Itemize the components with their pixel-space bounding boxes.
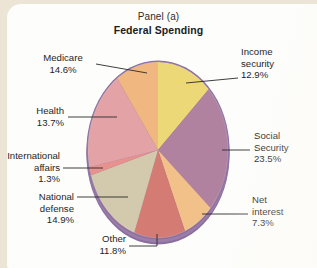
label-income-security: Income security 12.9% <box>241 46 274 81</box>
label-net-interest: Net interest 7.3% <box>252 194 283 229</box>
label-medicare: Medicare 14.6% <box>33 52 93 75</box>
figure-container: Panel (a) Federal Spending <box>0 0 317 268</box>
label-social-security-line2: Security <box>254 142 289 153</box>
label-international-affairs: International affairs 1.3% <box>0 150 60 185</box>
label-income-security-value: 12.9% <box>241 69 274 81</box>
label-net-interest-line1: Net <box>252 194 267 205</box>
label-other-value: 11.8% <box>58 245 126 257</box>
label-international-affairs-value: 1.3% <box>0 173 60 185</box>
label-income-security-line1: Income <box>241 46 272 57</box>
label-net-interest-line2: interest <box>252 206 283 217</box>
label-health: Health 13.7% <box>0 105 64 128</box>
label-medicare-value: 14.6% <box>33 64 93 76</box>
label-national-defense-line1: National <box>39 191 74 202</box>
label-net-interest-value: 7.3% <box>252 217 283 229</box>
label-social-security: Social Security 23.5% <box>254 130 289 165</box>
label-international-affairs-line2: affairs <box>34 162 60 173</box>
label-income-security-line2: security <box>241 58 274 69</box>
label-international-affairs-line1: International <box>7 150 60 161</box>
label-national-defense-value: 14.9% <box>3 214 74 226</box>
label-other-line1: Other <box>102 233 126 244</box>
label-national-defense: National defense 14.9% <box>3 191 74 226</box>
label-social-security-line1: Social <box>254 130 280 141</box>
label-social-security-value: 23.5% <box>254 153 289 165</box>
label-medicare-line1: Medicare <box>43 52 82 63</box>
label-health-value: 13.7% <box>0 117 64 129</box>
label-health-line1: Health <box>36 105 64 116</box>
label-national-defense-line2: defense <box>40 203 74 214</box>
label-other: Other 11.8% <box>58 233 126 256</box>
